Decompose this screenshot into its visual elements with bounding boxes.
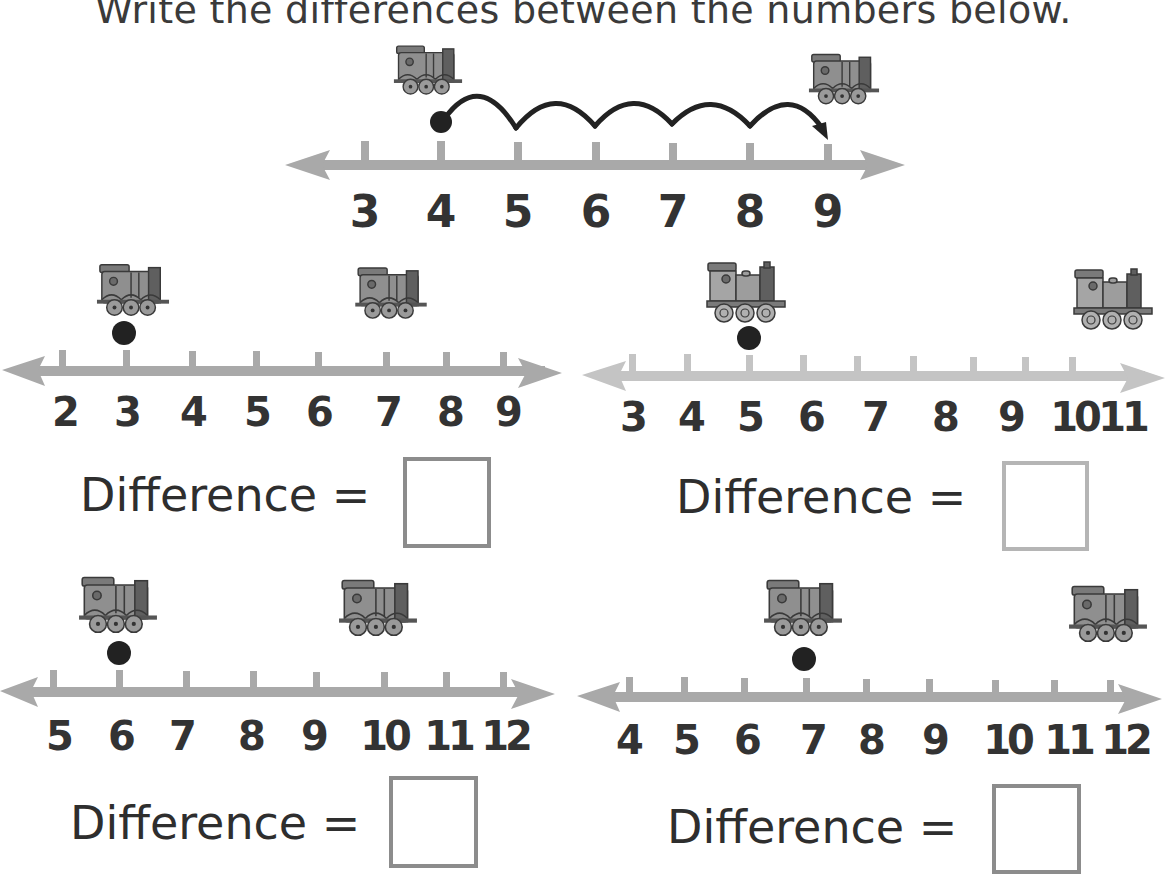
problem-d: 4 5 6 7 8 9 10 11 12 Difference =: [0, 0, 1167, 895]
tick-label: 11: [1044, 720, 1092, 760]
tick-label: 6: [734, 720, 762, 760]
start-dot-icon: [792, 647, 816, 671]
tick-label: 10: [983, 720, 1031, 760]
start-train-icon: [763, 577, 843, 641]
end-train-icon: [1068, 583, 1148, 647]
tick-label: 12: [1101, 720, 1149, 760]
tick-label: 5: [673, 720, 701, 760]
answer-box-d[interactable]: [992, 784, 1081, 874]
tick-label: 7: [800, 720, 828, 760]
tick-label: 9: [922, 720, 950, 760]
tick-label: 4: [616, 720, 644, 760]
tick-label: 8: [858, 720, 886, 760]
difference-label: Difference =: [667, 804, 957, 850]
